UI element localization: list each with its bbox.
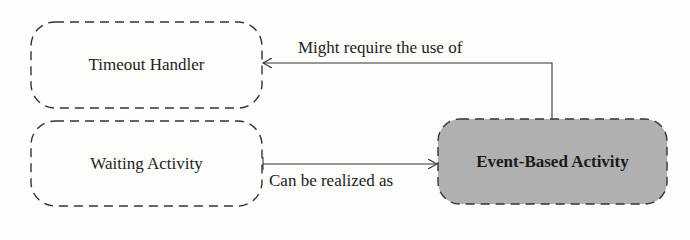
event-based-activity-label: Event-Based Activity: [438, 152, 667, 172]
edge-might-require: [263, 63, 552, 119]
edge-label-can-be-realized: Can be realized as: [269, 171, 393, 191]
waiting-activity-label: Waiting Activity: [31, 154, 262, 174]
timeout-handler-label: Timeout Handler: [31, 55, 262, 75]
edge-label-might-require: Might require the use of: [298, 38, 462, 58]
